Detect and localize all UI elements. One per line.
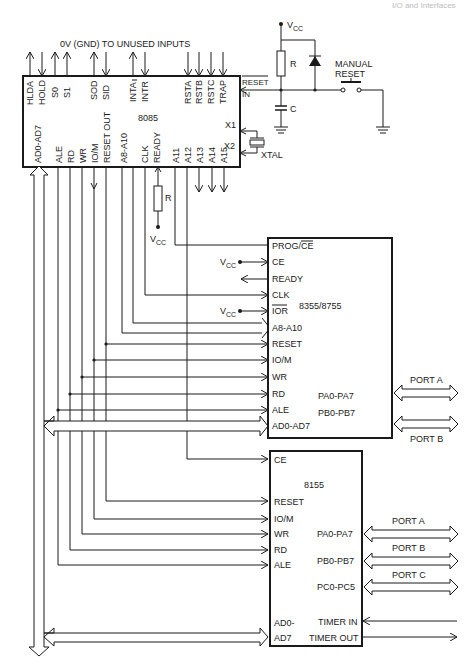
ram-pin-io-m: IO/M [274, 514, 294, 524]
svg-text:VCC: VCC [150, 234, 166, 246]
svg-text:VCC: VCC [220, 257, 236, 269]
ram-timer-out: TIMER OUT [309, 633, 359, 643]
pin-a13: A13 [195, 147, 205, 163]
pin-hold: HOLD [37, 79, 47, 105]
ram-pin-wr: WR [274, 529, 289, 539]
diode-icon [309, 56, 321, 66]
rom-pa-pins: PA0-PA7 [318, 391, 354, 401]
ram-pin-reset: RESET [274, 497, 305, 507]
schematic: I/O and Interfaces 0V (GND) TO UNUSED IN… [0, 0, 475, 670]
pin-rsta: RSTA [183, 81, 193, 104]
ram-pin-rd: RD [274, 545, 287, 555]
rom-pin-reset: RESET [272, 339, 303, 349]
rom-pin-wr: WR [272, 372, 287, 382]
rom-pin-ready: READY [272, 274, 303, 284]
ram-pa-pins: PA0-PA7 [317, 529, 353, 539]
ram-timer-in: TIMER IN [318, 617, 358, 627]
rom-pin-ad0-ad7: AD0-AD7 [272, 421, 310, 431]
pin-inta: INTA [128, 82, 138, 102]
pin-a8-a10: A8-A10 [119, 133, 129, 163]
ram-port-b-label: PORT B [392, 543, 425, 553]
ram-pin-ad7: AD7 [274, 633, 292, 643]
pin-ale: ALE [54, 146, 64, 163]
pin-sid: SID [101, 84, 111, 100]
pin-wr: WR [78, 148, 88, 163]
pin-s1: S1 [62, 87, 72, 98]
rom-pin-prog-ce: PROG/CE [272, 241, 314, 251]
pin-a12: A12 [183, 147, 193, 163]
pin-rstb: RSTB [194, 80, 204, 104]
rom-name: 8355/8755 [299, 301, 342, 311]
pin-a11: A11 [171, 148, 181, 163]
rom-pin-io-m: IO/M [272, 355, 292, 365]
rom-port-a-label: PORT A [410, 375, 443, 385]
manual-label-2: RESET [335, 69, 366, 79]
rom-port-b-label: PORT B [410, 434, 443, 444]
ready-resistor-label: R [165, 193, 172, 203]
pin-a15: A15 [219, 147, 229, 163]
ram-pin-ad0: AD0- [274, 618, 295, 628]
pin-rstc: RSTC [206, 79, 216, 104]
pin-io-m: IO/M [90, 144, 100, 164]
ram-pc-pins: PC0-PC5 [317, 582, 355, 592]
ram-pb-pins: PB0-PB7 [317, 556, 354, 566]
pin-x1: X1 [225, 120, 236, 130]
pin-sod: SOD [89, 80, 99, 100]
pin-reset-out: RESET OUT [102, 111, 112, 163]
reset-vcc: VCC [287, 20, 303, 32]
rom-pin-a8-a10: A8-A10 [272, 323, 302, 333]
capacitor-label: C [290, 104, 297, 114]
svg-text:VCC: VCC [220, 306, 236, 318]
pin-s0: S0 [50, 87, 60, 98]
crystal: XTAL [240, 128, 283, 160]
ram-port-c-label: PORT C [392, 570, 426, 580]
ram-name: 8155 [304, 480, 324, 490]
rom-8355: PROG/CE CE READY CLK IOR A8-A10 RESET IO… [268, 238, 458, 444]
pin-ready: READY [152, 132, 162, 163]
svg-text:RESET: RESET [242, 78, 269, 87]
ram-pin-ce: CE [274, 455, 287, 465]
pin-intr: INTR [140, 81, 150, 102]
pin-hlda: HLDA [25, 81, 35, 105]
ram-8155: CE 8155 RESET IO/M WR RD ALE AD0- AD7 PA… [270, 451, 458, 646]
unused-inputs-note: 0V (GND) TO UNUSED INPUTS [60, 39, 190, 49]
ram-port-a-label: PORT A [392, 516, 425, 526]
manual-label-1: MANUAL [335, 59, 373, 69]
pin-a14: A14 [207, 147, 217, 163]
rom-pin-ior: IOR [272, 306, 289, 316]
running-head: I/O and Interfaces [392, 1, 456, 10]
reset-resistor-label: R [290, 59, 297, 69]
pin-ad0-ad7: AD0-AD7 [33, 125, 43, 163]
pin-rd: RD [66, 150, 76, 163]
rom-pin-rd: RD [272, 389, 285, 399]
ram-pin-ale: ALE [274, 560, 291, 570]
rom-pb-pins: PB0-PB7 [318, 408, 355, 418]
rom-pin-clk: CLK [272, 290, 290, 300]
cpu-bottom-wiring: R VCC [29, 166, 270, 656]
rom-pin-ale: ALE [272, 405, 289, 415]
pin-trap: TRAP [218, 80, 228, 104]
xtal-label: XTAL [261, 150, 283, 160]
pin-clk: CLK [140, 145, 150, 163]
cpu-8085: 8085 HLDA HOLD S0 S1 SOD SID INTA INTR R… [23, 52, 269, 167]
cpu-name: 8085 [138, 113, 158, 123]
rom-pin-ce: CE [272, 257, 285, 267]
